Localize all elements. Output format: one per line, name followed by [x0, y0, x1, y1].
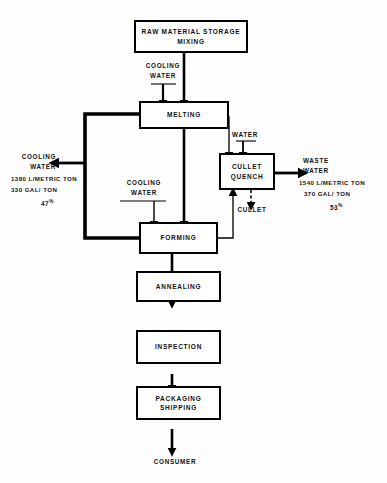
stream-cooling-water-percent: 47% [41, 197, 54, 209]
node-melting: MELTING [139, 101, 229, 129]
label-cooling-water-forming-line1: COOLING [106, 178, 182, 188]
label-water-quench: WATER [221, 130, 269, 140]
stream-waste-water-imperial: 370 GAL/ TON [304, 189, 350, 200]
node-forming: FORMING [139, 222, 218, 254]
edge-melting-recycle-loop-to-forming [85, 114, 140, 238]
label-cooling-water-melting-line2: WATER [128, 71, 198, 81]
node-cullet-quench: CULLET QUENCH [219, 153, 275, 190]
node-forming-label: FORMING [161, 233, 197, 242]
node-annealing-label: ANNEALING [156, 282, 201, 291]
stream-waste-water-line1: WASTE [303, 156, 363, 166]
node-cullet-quench-line1: CULLET [232, 162, 262, 171]
node-melting-label: MELTING [167, 110, 201, 119]
stream-waste-water-percent: 53% [330, 201, 343, 213]
node-packaging-shipping: PACKAGING SHIPPING [136, 386, 221, 420]
label-cullet-out: CULLET [228, 205, 276, 215]
label-cooling-water-melting: COOLING WATER [128, 61, 198, 81]
stream-cooling-water-percent-value: 47 [41, 200, 49, 207]
node-raw-material-line2: MIXING [177, 37, 205, 46]
label-cooling-water-melting-line1: COOLING [128, 61, 198, 71]
stream-cooling-water-imperial: 330 GAL/ TON [11, 185, 57, 196]
node-cullet-quench-line2: QUENCH [231, 172, 264, 181]
stream-waste-water-title: WASTE WATER [303, 156, 363, 176]
stream-waste-water-percent-symbol: % [338, 202, 343, 208]
stream-waste-water-line2: WATER [303, 166, 363, 176]
stream-cooling-water-line2: WATER [10, 162, 56, 172]
stream-cooling-water-title: COOLING WATER [10, 152, 56, 172]
label-consumer: CONSUMER [145, 457, 205, 467]
stream-waste-water-percent-value: 53 [330, 204, 338, 211]
stream-waste-water-metric: 1540 L/METRIC TON [299, 178, 365, 189]
node-annealing: ANNEALING [136, 271, 221, 302]
node-raw-material-line1: RAW MATERIAL STORAGE [142, 27, 241, 36]
node-inspection-label: INSPECTION [155, 342, 202, 351]
node-raw-material-storage-mixing: RAW MATERIAL STORAGE MIXING [134, 20, 248, 53]
stream-cooling-water-line1: COOLING [10, 152, 56, 162]
label-cooling-water-forming: COOLING WATER [106, 178, 182, 198]
node-inspection: INSPECTION [136, 330, 221, 364]
stream-cooling-water-percent-symbol: % [49, 198, 54, 204]
edge-forming-to-cullet-quench [217, 195, 233, 238]
stream-cooling-water-metric: 1380 L/METRIC TON [11, 174, 77, 185]
label-cooling-water-forming-line2: WATER [106, 188, 182, 198]
node-packaging-line2: SHIPPING [160, 403, 197, 412]
node-packaging-line1: PACKAGING [156, 394, 202, 403]
process-flow-diagram: RAW MATERIAL STORAGE MIXING MELTING CULL… [0, 0, 387, 483]
